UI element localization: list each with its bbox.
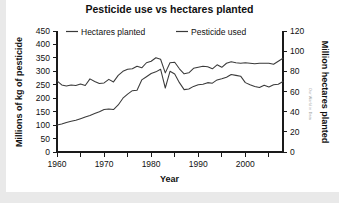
chart-canvas: Pesticide use vs hectares planted Year M…	[0, 0, 339, 203]
y-left-tick-label: 250	[36, 80, 50, 90]
y-right-tick-label: 0	[290, 147, 295, 157]
chart-title: Pesticide use vs hectares planted	[85, 3, 253, 15]
y-left-tick-label: 300	[36, 66, 50, 76]
x-tick-label: 1960	[48, 159, 67, 169]
x-tick-label: 1970	[95, 159, 114, 169]
x-axis-title: Year	[160, 174, 180, 184]
bottom-edge-band	[0, 192, 339, 203]
y-left-tick-label: 0	[45, 147, 50, 157]
y-right-axis-title: Million hectares planted	[320, 41, 330, 144]
left-edge-band	[0, 0, 6, 203]
y-right-tick-label: 60	[290, 87, 300, 97]
y-left-tick-label: 450	[36, 26, 50, 36]
y-left-tick-label: 400	[36, 39, 50, 49]
y-left-tick-label: 350	[36, 53, 50, 63]
y-right-tick-label: 20	[290, 127, 300, 137]
x-tick-label: 1980	[142, 159, 161, 169]
y-right-tick-label: 100	[290, 46, 304, 56]
x-tick-label: 1990	[189, 159, 208, 169]
legend-label-pesticide: Pesticide used	[191, 27, 247, 37]
y-left-tick-label: 100	[36, 120, 50, 130]
y-left-tick-label: 50	[41, 134, 51, 144]
y-left-tick-label: 150	[36, 107, 50, 117]
y-right-tick-label: 80	[290, 66, 300, 76]
chart-background	[0, 0, 339, 203]
y-left-axis-title: Millions of kg of pesticide	[14, 37, 24, 147]
watermark-label: Our World in Data	[308, 88, 312, 120]
chart-figure: Pesticide use vs hectares planted Year M…	[0, 0, 339, 203]
x-tick-label: 2000	[236, 159, 255, 169]
legend-label-hectares: Hectares planted	[81, 27, 146, 37]
y-right-tick-label: 40	[290, 107, 300, 117]
y-right-tick-label: 120	[290, 26, 304, 36]
y-left-tick-label: 200	[36, 93, 50, 103]
